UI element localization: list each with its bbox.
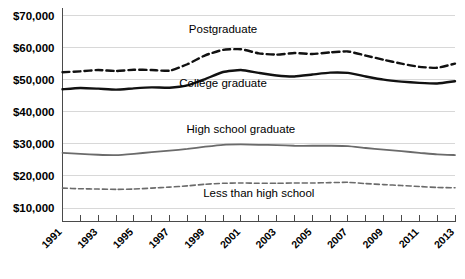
x-axis-tick-label: 1991 <box>39 225 64 250</box>
x-axis-tick-label: 1993 <box>75 225 100 250</box>
series-label-less-than-high-school: Less than high school <box>203 187 314 199</box>
y-axis-tick-label: $30,000 <box>13 138 55 150</box>
x-axis-tick-label: 2011 <box>396 225 421 250</box>
series-line-postgraduate <box>63 49 456 72</box>
y-axis-tick-labels: $70,000$60,000$50,000$40,000$30,000$20,0… <box>13 10 55 215</box>
line-chart: $70,000$60,000$50,000$40,000$30,000$20,0… <box>0 0 465 279</box>
x-axis-tick-label: 1995 <box>110 225 135 250</box>
x-axis-tick-label: 2013 <box>431 225 456 250</box>
x-axis-tick-label: 2003 <box>253 225 278 250</box>
y-axis-tick-label: $20,000 <box>13 170 55 182</box>
x-axis-tick-label: 1999 <box>182 225 207 250</box>
x-axis-tick-label: 2005 <box>289 225 314 250</box>
series-label-postgraduate: Postgraduate <box>189 23 257 35</box>
gridlines <box>63 16 456 209</box>
x-axis-tick-label: 2001 <box>217 225 242 250</box>
y-axis-tick-label: $70,000 <box>13 10 55 22</box>
series-label-high-school-graduate: High school graduate <box>187 123 296 135</box>
data-series <box>63 49 456 189</box>
x-axis-tick-marks <box>63 215 456 222</box>
x-axis-tick-label: 1997 <box>146 225 171 250</box>
x-axis-tick-label: 2007 <box>324 225 349 250</box>
series-line-high-school-graduate <box>63 144 456 155</box>
y-axis-tick-label: $50,000 <box>13 74 55 86</box>
y-axis-tick-label: $10,000 <box>13 202 55 214</box>
x-axis-tick-label: 2009 <box>360 225 385 250</box>
series-label-college-graduate: College graduate <box>179 77 267 89</box>
y-axis-tick-label: $40,000 <box>13 106 55 118</box>
chart-canvas: $70,000$60,000$50,000$40,000$30,000$20,0… <box>0 0 465 279</box>
x-axis-tick-labels: 1991199319951997199920012003200520072009… <box>39 225 457 250</box>
y-axis-tick-label: $60,000 <box>13 42 55 54</box>
